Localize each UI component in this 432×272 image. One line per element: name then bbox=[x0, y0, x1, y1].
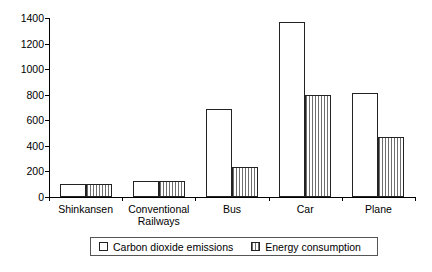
y-axis-line bbox=[49, 18, 50, 197]
bar bbox=[352, 93, 378, 197]
x-axis-tick bbox=[122, 197, 123, 201]
bar-chart: 0200400600800100012001400 ShinkansenConv… bbox=[0, 0, 432, 272]
y-axis-tick-label: 800 bbox=[6, 90, 44, 100]
bar bbox=[86, 184, 112, 197]
x-axis-tick bbox=[49, 197, 50, 201]
legend-item-carbon-dioxide-emissions: Carbon dioxide emissions bbox=[99, 241, 233, 253]
plot-area: 0200400600800100012001400 ShinkansenConv… bbox=[49, 18, 415, 197]
x-axis-tick bbox=[342, 197, 343, 201]
x-axis-label: Shinkansen bbox=[58, 203, 113, 215]
x-axis-tick bbox=[195, 197, 196, 201]
y-axis-tick bbox=[45, 69, 49, 70]
y-axis-tick bbox=[45, 120, 49, 121]
bar bbox=[133, 181, 159, 197]
x-axis-label: Plane bbox=[365, 203, 392, 215]
x-axis-label: ConventionalRailways bbox=[128, 203, 189, 227]
hatched-square-icon bbox=[251, 242, 260, 251]
y-axis-tick bbox=[45, 95, 49, 96]
y-axis-tick-label: 200 bbox=[6, 166, 44, 176]
legend-item-energy-consumption: Energy consumption bbox=[251, 241, 361, 253]
y-axis-tick-label: 1400 bbox=[6, 13, 44, 23]
legend-label: Carbon dioxide emissions bbox=[113, 241, 233, 253]
x-axis-label-line: Car bbox=[297, 203, 314, 215]
y-axis-tick bbox=[45, 146, 49, 147]
bar bbox=[305, 95, 331, 197]
x-axis-label-line: Plane bbox=[365, 203, 392, 215]
x-axis-label-line: Bus bbox=[223, 203, 241, 215]
y-axis-tick-label: 0 bbox=[6, 192, 44, 202]
y-axis-tick bbox=[45, 18, 49, 19]
chart-legend: Carbon dioxide emissions Energy consumpt… bbox=[90, 237, 378, 256]
bar bbox=[279, 22, 305, 197]
white-square-icon bbox=[99, 242, 108, 251]
x-axis-tick bbox=[269, 197, 270, 201]
y-axis-tick-label: 1200 bbox=[6, 39, 44, 49]
y-axis-tick-label: 600 bbox=[6, 115, 44, 125]
x-axis-label-line: Shinkansen bbox=[58, 203, 113, 215]
bar bbox=[159, 181, 185, 197]
y-axis-tick-label: 400 bbox=[6, 141, 44, 151]
x-axis-label-line: Railways bbox=[128, 215, 189, 227]
x-axis-label: Bus bbox=[223, 203, 241, 215]
bar bbox=[232, 167, 258, 197]
y-axis-tick-label: 1000 bbox=[6, 64, 44, 74]
x-axis-label: Car bbox=[297, 203, 314, 215]
x-axis-tick bbox=[415, 197, 416, 201]
x-axis-label-line: Conventional bbox=[128, 203, 189, 215]
y-axis-tick bbox=[45, 171, 49, 172]
bar bbox=[378, 137, 404, 197]
bar bbox=[60, 184, 86, 197]
bar bbox=[206, 109, 232, 197]
y-axis-tick bbox=[45, 44, 49, 45]
legend-label: Energy consumption bbox=[265, 241, 361, 253]
x-axis-line bbox=[49, 197, 415, 198]
